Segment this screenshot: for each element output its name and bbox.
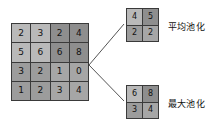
input-cell-r3c3: 4 bbox=[70, 82, 88, 100]
input-cell-r0c2: 2 bbox=[51, 24, 69, 42]
max-pooling-output-matrix: 6 8 3 4 bbox=[126, 85, 159, 119]
input-cell-r0c3: 4 bbox=[70, 24, 88, 42]
input-cell-r1c2: 6 bbox=[51, 43, 69, 61]
input-cell-r2c3: 0 bbox=[70, 63, 88, 81]
input-feature-map-matrix: 2 3 2 4 5 6 6 8 3 2 1 0 1 2 3 4 bbox=[11, 23, 89, 101]
input-cell-r3c0: 1 bbox=[12, 82, 30, 100]
input-cell-r2c0: 3 bbox=[12, 63, 30, 81]
input-cell-r2c2: 1 bbox=[51, 63, 69, 81]
input-cell-r3c1: 2 bbox=[31, 82, 49, 100]
avg-cell-r1c1: 2 bbox=[143, 26, 158, 42]
avg-cell-r0c0: 4 bbox=[127, 9, 142, 25]
average-pooling-output-matrix: 4 5 2 2 bbox=[126, 8, 159, 42]
connector-line-to-average bbox=[89, 24, 124, 65]
max-pooling-label: 最大池化 bbox=[168, 97, 205, 110]
connector-line-to-max bbox=[89, 65, 124, 101]
max-cell-r0c0: 6 bbox=[127, 86, 142, 102]
max-cell-r1c1: 4 bbox=[143, 103, 158, 119]
average-pooling-label: 平均池化 bbox=[168, 20, 205, 33]
input-cell-r2c1: 2 bbox=[31, 63, 49, 81]
input-cell-r1c1: 6 bbox=[31, 43, 49, 61]
avg-cell-r0c1: 5 bbox=[143, 9, 158, 25]
input-cell-r3c2: 3 bbox=[51, 82, 69, 100]
input-cell-r0c0: 2 bbox=[12, 24, 30, 42]
pooling-diagram: 2 3 2 4 5 6 6 8 3 2 1 0 1 2 3 4 4 5 2 2 … bbox=[0, 0, 216, 130]
input-cell-r1c3: 8 bbox=[70, 43, 88, 61]
max-cell-r1c0: 3 bbox=[127, 103, 142, 119]
max-cell-r0c1: 8 bbox=[143, 86, 158, 102]
input-cell-r1c0: 5 bbox=[12, 43, 30, 61]
avg-cell-r1c0: 2 bbox=[127, 26, 142, 42]
input-cell-r0c1: 3 bbox=[31, 24, 49, 42]
